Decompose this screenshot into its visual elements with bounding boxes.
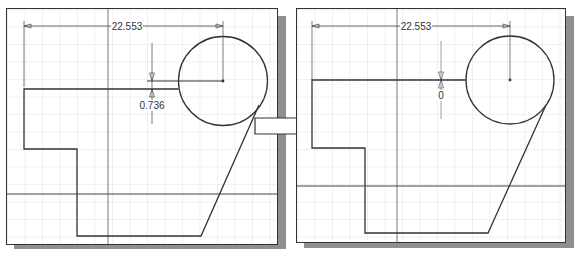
- figure: 22.553 0.736: [0, 0, 576, 254]
- horizontal-dimension-value: 22.553: [401, 21, 432, 32]
- sketch-before: 22.553 0.736: [7, 9, 278, 245]
- sketch-after: 22.553 0: [297, 9, 566, 243]
- grid: [7, 9, 278, 245]
- panel-after: 22.553 0: [296, 8, 566, 243]
- grid: [297, 9, 566, 243]
- vertical-dimension-value: 0.736: [139, 100, 164, 111]
- circle-center-point: [509, 79, 512, 82]
- horizontal-dimension-value: 22.553: [112, 21, 143, 32]
- panel-before: 22.553 0.736: [6, 8, 278, 245]
- circle-center-point: [222, 80, 225, 83]
- vertical-dimension-value: 0: [438, 90, 444, 101]
